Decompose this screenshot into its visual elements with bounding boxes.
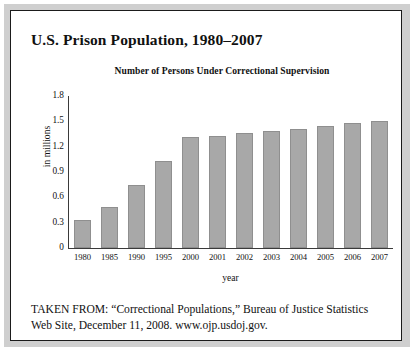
x-axis-tick: 1990 xyxy=(124,253,150,262)
x-axis-tick: 2001 xyxy=(205,253,231,262)
x-axis-tick: 2006 xyxy=(340,253,366,262)
bar xyxy=(344,123,361,248)
x-axis-tick: 2000 xyxy=(178,253,204,262)
chart-subtitle: Number of Persons Under Correctional Sup… xyxy=(57,65,387,76)
y-axis-title: in millions xyxy=(41,102,52,192)
bar xyxy=(155,161,172,248)
bar xyxy=(128,185,145,248)
bar xyxy=(182,137,199,248)
source-note-line-1: TAKEN FROM: “Correctional Populations,” … xyxy=(31,302,393,318)
x-axis-title: year xyxy=(68,272,393,283)
x-axis-tick-labels: 1980198519901995200020012002200320042005… xyxy=(69,253,393,262)
bar xyxy=(263,131,280,248)
x-axis-tick: 1985 xyxy=(97,253,123,262)
bar xyxy=(290,129,307,248)
x-axis-tick: 2005 xyxy=(313,253,339,262)
y-axis-tick: 0.3 xyxy=(42,218,64,227)
x-axis-tick: 1995 xyxy=(151,253,177,262)
bar xyxy=(74,220,91,248)
chart-plot-area: 1.81.51.20.90.60.30 in millions 19801985… xyxy=(68,96,393,249)
figure-frame: U.S. Prison Population, 1980–2007 Number… xyxy=(10,10,402,341)
bar xyxy=(317,126,334,248)
x-axis-tick: 2007 xyxy=(367,253,393,262)
x-axis-tick: 1980 xyxy=(70,253,96,262)
x-axis-tick: 2004 xyxy=(286,253,312,262)
bar xyxy=(209,136,226,248)
page-title: U.S. Prison Population, 1980–2007 xyxy=(31,31,263,49)
source-note-line-2: Web Site, December 11, 2008. www.ojp.usd… xyxy=(31,318,393,334)
figure-page: U.S. Prison Population, 1980–2007 Number… xyxy=(0,0,416,357)
bar xyxy=(236,133,253,248)
source-note: TAKEN FROM: “Correctional Populations,” … xyxy=(31,302,393,335)
y-axis-tick: 0 xyxy=(42,243,64,252)
x-axis-tick: 2003 xyxy=(259,253,285,262)
bar-series xyxy=(69,96,393,248)
x-axis-line xyxy=(68,248,393,249)
y-axis-tick: 0.6 xyxy=(42,193,64,202)
bar xyxy=(101,207,118,248)
y-axis-tick: 1.8 xyxy=(42,91,64,100)
x-axis-tick: 2002 xyxy=(232,253,258,262)
bar xyxy=(371,121,388,249)
